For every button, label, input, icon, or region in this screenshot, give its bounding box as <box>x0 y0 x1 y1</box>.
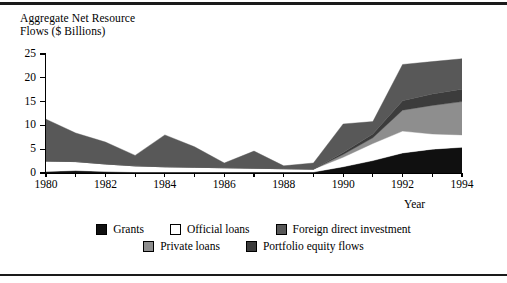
x-tick-label-1986: 1986 <box>201 178 247 190</box>
chart-legend: GrantsOfficial loansForeign direct inves… <box>0 221 507 255</box>
y-tick-10 <box>40 125 46 126</box>
plot-area <box>46 54 462 173</box>
x-tick-label-1980: 1980 <box>23 178 69 190</box>
legend-portfolio-equity-flows-label: Portfolio equity flows <box>263 241 364 253</box>
y-tick-label-10: 10 <box>10 119 36 131</box>
x-tick-label-1984: 1984 <box>142 178 188 190</box>
y-tick-label-0: 0 <box>10 167 36 179</box>
y-tick-15 <box>40 101 46 102</box>
legend-private-loans-label: Private loans <box>160 241 220 253</box>
legend-private-loans-swatch-icon <box>143 241 154 252</box>
stacked-area-svg <box>46 54 462 173</box>
x-tick-1992 <box>402 173 403 177</box>
legend-grants-swatch-icon <box>96 224 107 235</box>
y-tick-20 <box>40 77 46 78</box>
legend-official-loans: Official loans <box>170 224 250 236</box>
x-tick-1991 <box>372 173 373 177</box>
x-tick-label-1994: 1994 <box>439 178 485 190</box>
legend-foreign-direct-investment-label: Foreign direct investment <box>293 224 411 236</box>
legend-portfolio-equity-flows: Portfolio equity flows <box>246 241 364 253</box>
x-tick-1990 <box>343 173 344 177</box>
legend-foreign-direct-investment-swatch-icon <box>276 224 287 235</box>
x-tick-1988 <box>283 173 284 177</box>
legend-grants-label: Grants <box>113 224 144 236</box>
x-axis-label: Year <box>404 198 425 210</box>
x-tick-1986 <box>224 173 225 177</box>
x-tick-1993 <box>432 173 433 177</box>
chart-axis-title: Aggregate Net Resource Flows ($ Billions… <box>20 12 135 38</box>
x-tick-1982 <box>105 173 106 177</box>
x-tick-1985 <box>194 173 195 177</box>
legend-official-loans-swatch-icon <box>170 224 181 235</box>
y-tick-label-25: 25 <box>10 48 36 60</box>
x-tick-1983 <box>135 173 136 177</box>
x-tick-label-1992: 1992 <box>380 178 426 190</box>
x-tick-label-1982: 1982 <box>82 178 128 190</box>
x-tick-label-1990: 1990 <box>320 178 366 190</box>
y-tick-5 <box>40 149 46 150</box>
legend-official-loans-label: Official loans <box>187 224 250 236</box>
y-tick-25 <box>40 53 46 54</box>
chart-figure: Aggregate Net Resource Flows ($ Billions… <box>0 0 507 283</box>
legend-grants: Grants <box>96 224 144 236</box>
x-tick-1989 <box>313 173 314 177</box>
legend-row-2: Private loansPortfolio equity flows <box>0 238 507 255</box>
y-tick-label-15: 15 <box>10 96 36 108</box>
x-tick-1981 <box>75 173 76 177</box>
top-divider <box>0 2 507 5</box>
legend-foreign-direct-investment: Foreign direct investment <box>276 224 411 236</box>
y-tick-label-20: 20 <box>10 72 36 84</box>
y-axis-line <box>45 53 46 174</box>
legend-row-1: GrantsOfficial loansForeign direct inves… <box>0 221 507 238</box>
x-tick-1984 <box>164 173 165 177</box>
legend-portfolio-equity-flows-swatch-icon <box>246 241 257 252</box>
x-tick-1980 <box>45 173 46 177</box>
legend-private-loans: Private loans <box>143 241 220 253</box>
x-tick-1994 <box>461 173 462 177</box>
x-tick-1987 <box>253 173 254 177</box>
bottom-divider <box>0 274 507 276</box>
y-tick-label-5: 5 <box>10 143 36 155</box>
x-tick-label-1988: 1988 <box>261 178 307 190</box>
